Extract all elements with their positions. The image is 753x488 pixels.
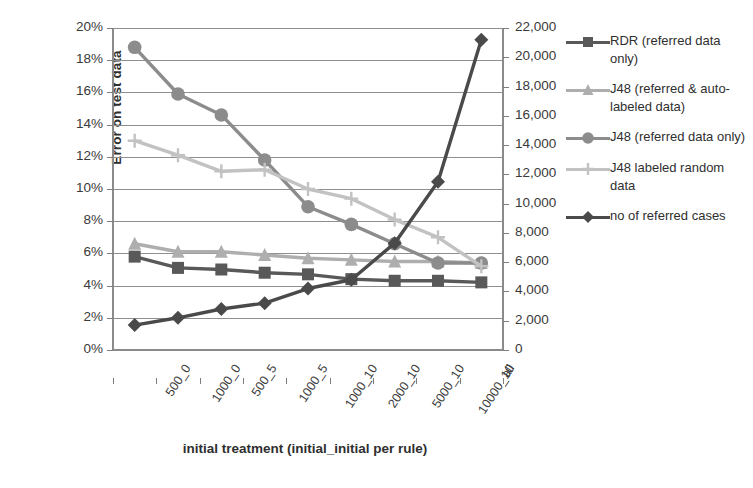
legend-label: RDR (referred data only) <box>610 32 746 67</box>
data-point-marker <box>345 218 359 232</box>
y-tick-mark-right <box>503 262 509 263</box>
y-tick-mark-right <box>503 116 509 117</box>
legend-label: no of referred cases <box>610 207 726 225</box>
y-tick-mark-right <box>503 321 509 322</box>
legend-marker <box>577 34 599 50</box>
x-tick-label: 5000_10 <box>429 362 467 410</box>
data-point-marker <box>214 164 228 178</box>
square-marker <box>566 34 610 50</box>
y-tick-mark-right <box>503 57 509 58</box>
legend-item[interactable]: RDR (referred data only) <box>566 32 746 67</box>
data-point-marker <box>171 148 185 162</box>
triangle-marker <box>566 82 610 98</box>
legend-marker <box>577 82 599 98</box>
y-tick-label-left: 8% <box>47 212 103 227</box>
data-point-marker <box>172 262 184 274</box>
y-tick-mark-left <box>107 350 113 351</box>
legend-item[interactable]: J48 (referred & auto-labeled data) <box>566 80 746 115</box>
data-point-marker <box>129 251 141 263</box>
x-axis-title: initial treatment (initial_initial per r… <box>80 441 530 456</box>
y-tick-mark-right <box>503 28 509 29</box>
plus-marker <box>566 161 610 177</box>
data-point-marker <box>301 200 315 214</box>
data-point-marker <box>128 41 142 55</box>
legend-item[interactable]: no of referred cases <box>566 207 746 225</box>
y-tick-label-left: 20% <box>47 19 103 34</box>
data-point-marker <box>475 276 487 288</box>
legend-label: J48 (referred data only) <box>610 128 745 146</box>
data-point-marker <box>301 282 315 296</box>
data-point-marker <box>474 33 488 47</box>
y-tick-label-left: 4% <box>47 277 103 292</box>
y-tick-mark-right <box>503 233 509 234</box>
x-tick-label: 1000_10 <box>342 362 380 410</box>
legend-item[interactable]: J48 labeled random data <box>566 159 746 194</box>
legend-marker <box>577 161 599 177</box>
data-point-marker <box>215 264 227 276</box>
x-tick-label: 500_0 <box>162 362 193 399</box>
legend-label: J48 (referred & auto-labeled data) <box>610 80 746 115</box>
data-point-marker <box>301 182 315 196</box>
diamond-marker <box>566 209 610 225</box>
x-tick-mark <box>200 378 201 384</box>
x-tick-mark <box>330 378 331 384</box>
y-tick-label-left: 2% <box>47 309 103 324</box>
x-tick-mark <box>243 378 244 384</box>
y-tick-mark-right <box>503 174 509 175</box>
data-point-marker <box>388 213 402 227</box>
y-tick-mark-right <box>503 87 509 88</box>
legend-marker <box>577 209 599 225</box>
chart-canvas: Error on test data initial treatment (in… <box>0 0 753 488</box>
x-tick-label: 2000_10 <box>385 362 423 410</box>
y-tick-mark-right <box>503 291 509 292</box>
legend-marker <box>577 130 599 146</box>
plot-area: 0%2%4%6%8%10%12%14%16%18%20% 02,0004,000… <box>113 28 503 350</box>
y-tick-label-left: 10% <box>47 180 103 195</box>
y-tick-label-left: 0% <box>47 341 103 356</box>
data-point-marker <box>214 302 228 316</box>
x-tick-mark <box>113 378 114 384</box>
legend: RDR (referred data only)J48 (referred & … <box>566 32 746 238</box>
legend-label: J48 labeled random data <box>610 159 746 194</box>
data-point-marker <box>431 256 445 270</box>
y-tick-label-left: 18% <box>47 51 103 66</box>
data-point-marker <box>389 275 401 287</box>
x-tick-label: 1000_0 <box>209 362 243 405</box>
data-point-marker <box>128 134 142 148</box>
data-point-marker <box>302 268 314 280</box>
x-tick-mark <box>156 378 157 384</box>
circle-marker <box>566 130 610 146</box>
x-tick-mark <box>286 378 287 384</box>
y-tick-label-right: 6,000 <box>515 253 585 268</box>
y-tick-mark-right <box>503 350 509 351</box>
y-tick-label-left: 6% <box>47 244 103 259</box>
x-tick-label: 1000_5 <box>296 362 330 405</box>
data-point-marker <box>171 311 185 325</box>
y-tick-mark-right <box>503 204 509 205</box>
x-tick-label: 500_5 <box>249 362 280 399</box>
y-tick-label-left: 12% <box>47 148 103 163</box>
series-line <box>135 47 482 263</box>
data-point-marker <box>259 267 271 279</box>
data-point-marker <box>128 318 142 332</box>
data-point-marker <box>258 296 272 310</box>
data-series-layer <box>113 28 503 350</box>
y-tick-label-left: 16% <box>47 83 103 98</box>
legend-item[interactable]: J48 (referred data only) <box>566 128 746 146</box>
y-tick-label-left: 14% <box>47 116 103 131</box>
y-tick-label-right: 2,000 <box>515 312 585 327</box>
data-point-marker <box>171 87 185 101</box>
y-tick-mark-right <box>503 145 509 146</box>
y-tick-label-right: 0 <box>515 341 585 356</box>
data-point-marker <box>432 275 444 287</box>
data-point-marker <box>344 192 358 206</box>
y-tick-label-right: 4,000 <box>515 282 585 297</box>
data-point-marker <box>215 108 229 122</box>
